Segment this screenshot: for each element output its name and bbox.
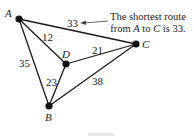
node-label-c: C xyxy=(142,39,149,50)
figure-caption-cropped xyxy=(88,133,114,136)
weight-a-d: 12 xyxy=(42,32,53,43)
arrow-head-icon xyxy=(80,21,86,26)
node-d xyxy=(62,60,69,67)
node-label-b: B xyxy=(45,112,52,123)
node-label-a: A xyxy=(5,8,12,19)
shortest-route-note: The shortest route from A to C is 33. xyxy=(110,11,186,35)
weight-b-c: 38 xyxy=(92,76,103,87)
weight-d-c: 21 xyxy=(92,45,103,56)
weight-a-c: 33 xyxy=(67,18,78,29)
note-line-2: from A to C is 33. xyxy=(110,23,186,35)
weight-d-b: 23 xyxy=(46,77,57,88)
node-c xyxy=(132,40,139,47)
node-b xyxy=(45,102,52,109)
node-a xyxy=(15,15,22,22)
node-label-d: D xyxy=(62,49,70,60)
annotation-arrow xyxy=(84,21,108,23)
note-line-1: The shortest route xyxy=(110,11,186,23)
weight-a-b: 35 xyxy=(19,58,30,69)
